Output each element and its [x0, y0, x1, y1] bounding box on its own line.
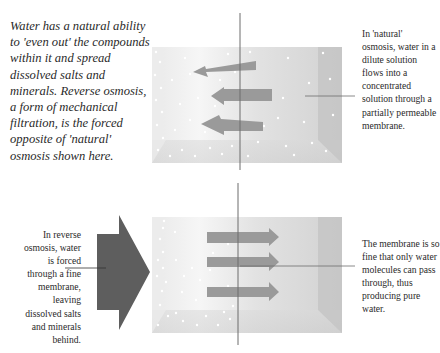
reverse-osmosis-tank — [152, 217, 342, 333]
reverse-osmosis-caption: In reverse osmosis, water is forced thro… — [20, 228, 81, 346]
natural-osmosis-tank — [152, 47, 342, 163]
flow-arrows-right — [207, 228, 279, 301]
pressure-arrow — [97, 215, 150, 330]
intro-text: Water has a natural ability to 'even out… — [10, 18, 150, 164]
membrane-caption: The membrane is so fine that only water … — [362, 237, 440, 316]
natural-osmosis-caption: In 'natural' osmosis, water in a dilute … — [362, 27, 438, 132]
